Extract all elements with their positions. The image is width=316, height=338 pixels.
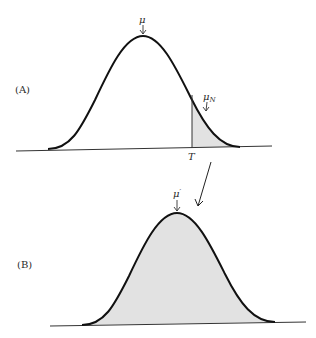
selected-mean-label: μN (203, 91, 217, 104)
mean-prime-label: μ′ (173, 188, 182, 199)
transition-arrow-icon (195, 162, 211, 206)
selected-mean-arrow-icon (203, 102, 209, 111)
panel-label-a: (A) (15, 84, 30, 95)
panel-label-b: (B) (17, 259, 32, 270)
mean-label-a: μ (139, 14, 146, 25)
panel-b: μ′ (B) (17, 188, 306, 326)
threshold-label: T (188, 151, 196, 162)
mean-arrow-icon-b (174, 200, 180, 211)
mean-arrow-icon-a (140, 25, 146, 34)
panel-a: μ μN T (A) (15, 14, 272, 162)
bell-curve-a (48, 36, 240, 149)
selection-diagram: μ μN T (A) μ′ (0, 0, 316, 338)
